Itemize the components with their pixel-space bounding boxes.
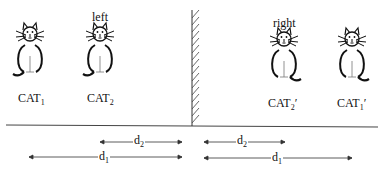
d1-left-label: d1 <box>98 149 110 165</box>
right-side-label: right <box>273 16 296 31</box>
cat2-prime-label: CAT2′ <box>268 96 297 112</box>
mirror <box>192 10 199 126</box>
d1-right-label: d1 <box>271 150 283 166</box>
mirror-diagram <box>0 0 385 178</box>
d2-left-label: d2 <box>133 133 145 149</box>
cat1-label: CAT1 <box>18 91 45 107</box>
cat2-prime-icon <box>270 28 301 80</box>
cat1-prime-label: CAT1′ <box>337 96 366 112</box>
cat1-icon <box>13 23 44 75</box>
cat2-label: CAT2 <box>87 91 114 107</box>
left-side-label: left <box>92 10 108 25</box>
d2-right-label: d2 <box>236 133 248 149</box>
cat1-prime-icon <box>338 28 369 80</box>
cat2-icon <box>83 23 114 75</box>
